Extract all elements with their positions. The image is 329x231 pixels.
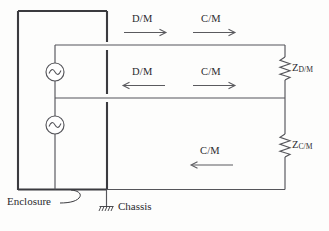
- source-top: [46, 63, 64, 81]
- zdm-zigzag-icon: [280, 57, 290, 80]
- chassis-tick-1: [99, 207, 101, 212]
- enclosure-leader-line: [60, 190, 80, 203]
- flow-label-bottom-cm: C/M: [200, 146, 220, 157]
- zcm-subscript-text: C/M: [298, 142, 312, 151]
- impedance-label-zcm: ZC/M: [292, 140, 313, 151]
- flow-label-mid-dm: D/M: [132, 67, 152, 78]
- chassis-tick-3: [105, 207, 107, 212]
- conductors: [55, 45, 285, 207]
- impedance-label-zdm: ZD/M: [292, 63, 313, 74]
- chassis-tick-4: [108, 207, 110, 212]
- flow-label-mid-cm: C/M: [201, 67, 221, 78]
- chassis-tick-5: [111, 207, 113, 212]
- zdm-subscript-text: D/M: [298, 65, 313, 74]
- flow-label-top-cm: C/M: [201, 14, 221, 25]
- circuit-diagram: D/M C/M D/M C/M C/M ZD/M ZC/M Enclosure …: [0, 0, 329, 231]
- chassis-tick-2: [102, 207, 104, 212]
- enclosure-caption: Enclosure: [7, 196, 51, 207]
- flow-label-top-dm: D/M: [132, 14, 152, 25]
- chassis-ground-icon: [99, 207, 114, 212]
- impedance-zdm-symbol: [280, 57, 290, 80]
- source-bottom: [46, 116, 64, 134]
- chassis-caption: Chassis: [118, 201, 152, 212]
- impedance-zcm-symbol: [280, 134, 290, 157]
- enclosure-outline: [18, 11, 107, 190]
- zcm-zigzag-icon: [280, 134, 290, 157]
